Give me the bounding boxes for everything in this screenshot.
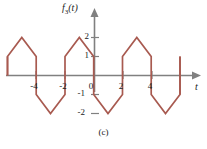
- y-tick-label--2: -2: [71, 107, 85, 117]
- x-tick-label--2: -2: [53, 81, 73, 91]
- x-axis: [6, 72, 201, 80]
- y-tick-label-1: 1: [75, 50, 89, 60]
- y-axis-label: f3(t): [62, 2, 78, 16]
- x-tick-label--4: -4: [24, 81, 44, 91]
- figure-container: f3(t) t -4 -2 0 2 4 2 1 -1 -2 (c): [0, 0, 207, 149]
- x-tick-label-2: 2: [111, 81, 131, 91]
- y-axis-label-arg: (t): [68, 2, 77, 13]
- figure-caption: (c): [0, 127, 207, 137]
- x-axis-arrow: [192, 72, 201, 80]
- y-axis-arrow: [91, 8, 99, 17]
- y-tick-label--1: -1: [71, 88, 85, 98]
- x-tick-label-4: 4: [140, 81, 160, 91]
- y-tick-label-2: 2: [75, 31, 89, 41]
- x-axis-label: t: [195, 81, 198, 92]
